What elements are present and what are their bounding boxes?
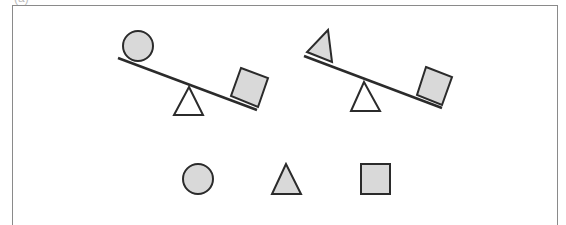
triangle-shape — [307, 30, 332, 62]
seesaw-1 — [118, 31, 268, 115]
seesaw-diagram — [0, 0, 566, 225]
shape-row — [183, 164, 390, 194]
circle-shape — [123, 31, 153, 61]
fulcrum-triangle — [174, 87, 203, 115]
seesaw-2 — [304, 30, 452, 111]
fulcrum-triangle — [351, 82, 380, 111]
square-shape — [361, 164, 390, 194]
triangle-shape — [272, 164, 301, 194]
circle-shape — [183, 164, 213, 194]
